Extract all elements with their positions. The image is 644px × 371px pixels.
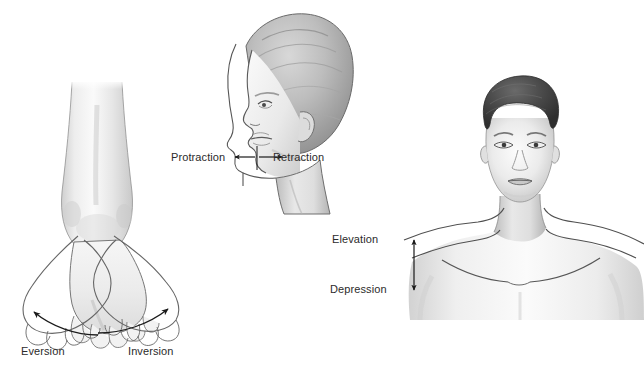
label-retraction: Retraction	[273, 151, 324, 163]
ankle-shading	[76, 214, 120, 242]
pupil-left	[502, 143, 507, 148]
label-depression: Depression	[330, 283, 387, 295]
pupil-right	[534, 143, 539, 148]
leg-top-fade	[50, 80, 146, 122]
label-protraction: Protraction	[171, 151, 225, 163]
illustration-canvas	[0, 0, 644, 371]
label-elevation: Elevation	[332, 233, 378, 245]
label-inversion: Inversion	[128, 345, 174, 357]
label-eversion: Eversion	[21, 345, 65, 357]
pupil	[262, 103, 266, 107]
anatomy-figure: Protraction Retraction Elevation Depress…	[0, 0, 644, 371]
